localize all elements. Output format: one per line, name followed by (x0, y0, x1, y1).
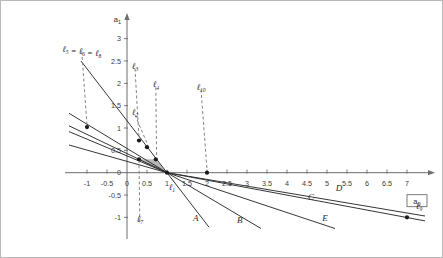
y-tick-label: 2.5 (111, 57, 121, 66)
y-tick-label: 2 (117, 79, 121, 88)
leader-line-l4 (156, 87, 157, 156)
series-line-A (81, 61, 209, 227)
point-marker-m-l10 (205, 171, 209, 175)
x-tick-label: 0.5 (142, 179, 152, 188)
y-tick-label: -1 (115, 213, 121, 222)
curve-label-D: D (335, 183, 343, 193)
curve-label-B: B (237, 215, 243, 225)
leader-line-l7 (139, 162, 140, 222)
point-marker-m-l9 (405, 215, 409, 219)
annotation-l1: ℓ1 (169, 182, 176, 193)
point-marker-m-l2 (145, 145, 149, 149)
curve-label-E: E (321, 213, 328, 223)
x-tick-label: 0 (125, 179, 129, 188)
y-axis-name: a1 (114, 15, 121, 25)
point-marker-m-left (85, 125, 89, 129)
x-tick-label: 5.5 (342, 179, 352, 188)
point-marker-m-l1 (165, 171, 169, 175)
figure-container: -1-0.500.511.522.533.544.555.566.5732.52… (0, 0, 443, 258)
annotation-l568: ℓ5 = ℓ6 = ℓ8 (62, 44, 101, 60)
leader-line-l568 (82, 52, 87, 126)
x-tick-label: 4.5 (302, 179, 312, 188)
x-tick-label: -0.5 (101, 179, 113, 188)
y-tick-label: -0.5 (109, 191, 121, 200)
annotation-l7: ℓ7 (137, 214, 144, 225)
point-marker-m-l3 (137, 138, 141, 142)
x-axis-arrow (428, 170, 435, 175)
point-marker-m-l7 (137, 157, 141, 161)
x-tick-label: 7 (405, 179, 409, 188)
x-tick-label: 6 (365, 179, 369, 188)
annotation-l3: ℓ3 (132, 61, 139, 72)
y-tick-label: 1 (117, 124, 121, 133)
x-tick-label: 5 (325, 179, 329, 188)
point-marker-m-l4 (154, 157, 158, 161)
series-line-D (69, 132, 425, 216)
x-tick-label: 3.5 (262, 179, 272, 188)
annotation-l4: ℓ4 (153, 79, 160, 90)
curve-label-A: A (192, 213, 199, 223)
leader-line-l10 (201, 90, 207, 170)
annotation-l10: ℓ10 (196, 82, 205, 93)
x-tick-label: 4 (285, 179, 289, 188)
curve-label-C: C (308, 192, 315, 202)
x-tick-label: -1 (84, 179, 90, 188)
leader-line-l3 (135, 69, 139, 138)
y-tick-label: 3 (117, 34, 121, 43)
plot-svg: -1-0.500.511.522.533.544.555.566.5732.52… (1, 1, 443, 258)
y-axis-arrow (124, 13, 129, 20)
y-tick-label: 0 (117, 168, 121, 177)
x-tick-label: 6.5 (382, 179, 392, 188)
